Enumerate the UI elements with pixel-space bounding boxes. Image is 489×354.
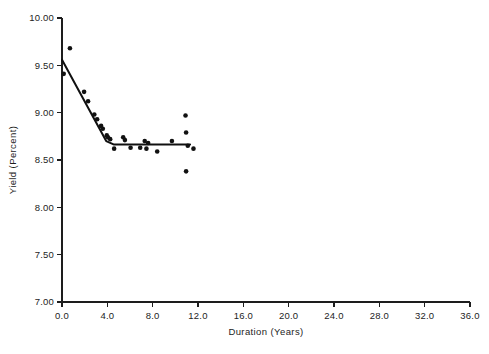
x-tick-label: 32.0 bbox=[415, 310, 434, 321]
data-point bbox=[82, 90, 87, 95]
data-point bbox=[68, 46, 73, 51]
x-tick-label: 4.0 bbox=[100, 310, 114, 321]
scatter-plot-svg: 7.007.508.008.509.009.5010.000.04.08.012… bbox=[0, 0, 489, 354]
data-point bbox=[123, 138, 128, 143]
y-tick-label: 10.00 bbox=[29, 12, 54, 23]
y-tick-label: 7.50 bbox=[35, 249, 54, 260]
data-point bbox=[170, 139, 175, 144]
x-tick-label: 24.0 bbox=[324, 310, 343, 321]
data-point bbox=[86, 99, 91, 104]
data-point bbox=[61, 72, 66, 77]
chart-figure: 7.007.508.008.509.009.5010.000.04.08.012… bbox=[0, 0, 489, 354]
data-point bbox=[191, 146, 196, 151]
data-point bbox=[186, 144, 191, 149]
data-point bbox=[184, 130, 189, 135]
data-point bbox=[95, 117, 100, 122]
x-tick-label: 12.0 bbox=[188, 310, 207, 321]
data-point bbox=[155, 149, 160, 154]
data-point bbox=[92, 112, 97, 117]
data-point bbox=[112, 146, 117, 151]
fit-line bbox=[62, 60, 190, 145]
data-point bbox=[101, 126, 106, 131]
x-tick-label: 8.0 bbox=[146, 310, 160, 321]
y-tick-label: 9.50 bbox=[35, 60, 54, 71]
data-point bbox=[184, 169, 189, 174]
x-tick-label: 36.0 bbox=[460, 310, 479, 321]
x-tick-label: 20.0 bbox=[279, 310, 298, 321]
data-point bbox=[108, 137, 113, 142]
y-tick-label: 7.00 bbox=[35, 296, 54, 307]
data-point bbox=[144, 146, 149, 151]
data-point bbox=[128, 145, 133, 150]
data-point bbox=[146, 141, 151, 146]
y-axis-title: Yield (Percent) bbox=[7, 126, 18, 194]
x-tick-label: 28.0 bbox=[370, 310, 389, 321]
data-point bbox=[183, 113, 188, 118]
y-tick-label: 8.50 bbox=[35, 154, 54, 165]
y-tick-label: 8.00 bbox=[35, 202, 54, 213]
data-point bbox=[138, 145, 143, 150]
x-tick-label: 16.0 bbox=[234, 310, 253, 321]
y-tick-label: 9.00 bbox=[35, 107, 54, 118]
x-tick-label: 0.0 bbox=[55, 310, 69, 321]
x-axis-title: Duration (Years) bbox=[228, 326, 303, 337]
